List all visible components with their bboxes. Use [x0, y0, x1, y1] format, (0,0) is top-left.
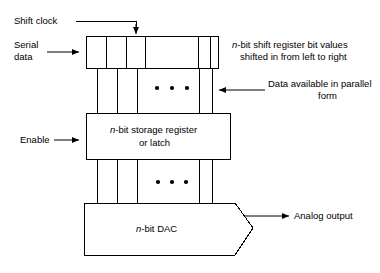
dac-label: n-bit DAC: [136, 223, 177, 234]
shift-clock-connector: [76, 21, 136, 34]
shift-register-note-line2: shifted in from left to right: [240, 51, 347, 62]
serial-data-label-line1: Serial: [14, 39, 38, 50]
shift-register-block: [86, 36, 218, 68]
serial-data-label-line2: data: [14, 51, 33, 62]
block-diagram-svg: Shift clock Serial data Enable Analog ou…: [0, 0, 380, 273]
storage-register-label-line2: or latch: [139, 137, 170, 148]
ellipsis-lower: [156, 180, 188, 184]
storage-register-label-line1: n-bit storage register: [110, 124, 197, 135]
parallel-data-note-line2: form: [318, 90, 337, 101]
shift-register-note-line1-rest: -bit shift register bit values: [237, 39, 348, 50]
shift-register-note-line1: n-bit shift register bit values: [232, 39, 348, 50]
ellipsis-upper: [155, 86, 189, 90]
parallel-data-note-line1: Data available in parallel: [268, 78, 372, 89]
enable-label: Enable: [20, 134, 50, 145]
parallel-bus-lower: [97, 159, 212, 203]
shift-clock-label: Shift clock: [14, 15, 58, 26]
analog-output-label: Analog output: [294, 210, 353, 221]
dac-label-rest: -bit DAC: [141, 223, 177, 234]
storage-register-block: [86, 113, 230, 159]
storage-register-label-line1-rest: -bit storage register: [115, 124, 197, 135]
diagram-canvas: Shift clock Serial data Enable Analog ou…: [0, 0, 380, 273]
parallel-bus-upper: [97, 68, 212, 113]
